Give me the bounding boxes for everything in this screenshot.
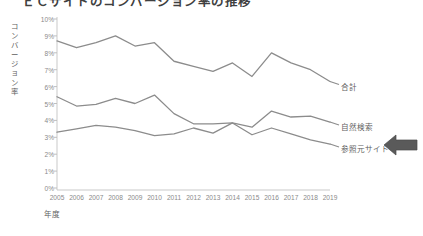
x-axis-ticks: 2005200620072008200920102011201220132014… <box>0 0 423 236</box>
x-tick-label: 2017 <box>284 194 299 201</box>
x-tick-label: 2008 <box>108 194 123 201</box>
x-tick-label: 2012 <box>186 194 201 201</box>
x-tick-label: 2018 <box>303 194 318 201</box>
arrow-pointing-left-icon <box>384 134 418 156</box>
x-tick-label: 2005 <box>50 194 65 201</box>
series-label-3: 参照元サイト <box>341 143 389 154</box>
x-tick-label: 2007 <box>89 194 104 201</box>
x-tick-label: 2010 <box>147 194 162 201</box>
x-tick-label: 2016 <box>264 194 279 201</box>
series-label-2: 自然検索 <box>341 121 373 132</box>
x-tick-label: 2013 <box>206 194 221 201</box>
x-tick-label: 2019 <box>323 194 338 201</box>
series-label-1: 合計 <box>341 80 357 91</box>
x-tick-label: 2014 <box>225 194 240 201</box>
conversion-rate-line-chart: ＥＣサイトのコンバージョン率の推移 コンバージョン率 10%9%8%7%6%5%… <box>0 0 423 236</box>
x-tick-label: 2015 <box>245 194 260 201</box>
x-tick-label: 2011 <box>167 194 181 201</box>
x-tick-label: 2006 <box>69 194 84 201</box>
x-tick-label: 2009 <box>128 194 143 201</box>
x-axis-label: 年度 <box>44 208 60 219</box>
